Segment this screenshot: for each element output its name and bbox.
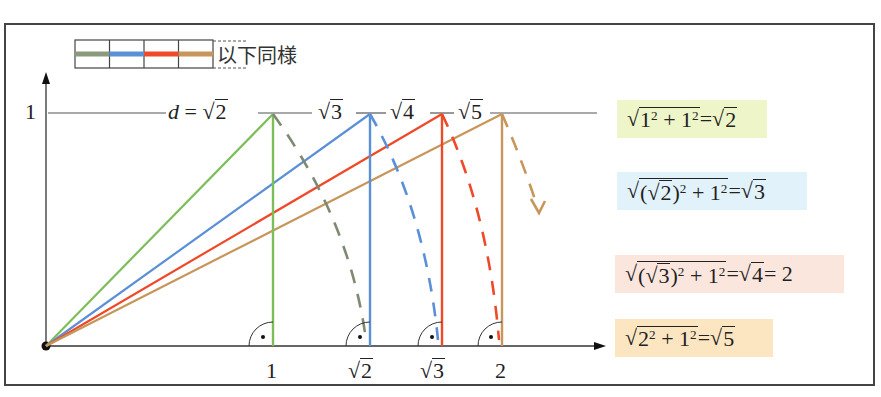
formula-box-3: √(√3)2 + 12 = √4 = 2: [615, 255, 844, 293]
formula-box-1: √12 + 12 = √2: [617, 100, 767, 138]
x-tick-label-2: 2: [495, 358, 506, 384]
y-tick-label-1: 1: [25, 99, 36, 125]
right-angle-marks: [249, 322, 502, 346]
x-tick-label-1: 1: [266, 358, 277, 384]
x-tick-label-sqrt2: √2: [348, 358, 373, 384]
hyp-label-sqrt5: √5: [458, 99, 483, 125]
vertical-legs: [273, 114, 502, 346]
formula-box-2: √(√2)2 + 12 = √3: [617, 172, 807, 210]
legend-caption: 以下同様: [217, 40, 297, 69]
hyp-label-sqrt3: √3: [318, 99, 343, 125]
dashed-arcs: [273, 114, 537, 340]
hyp-label-sqrt2: d = √2: [168, 99, 228, 125]
formula-box-4: √22 + 12 = √5: [615, 319, 773, 357]
arc-arrowhead-icon: [531, 199, 545, 213]
right-angle-dots: [261, 335, 493, 339]
hyp-label-sqrt4: √4: [390, 99, 415, 125]
x-tick-label-sqrt3: √3: [420, 358, 445, 384]
